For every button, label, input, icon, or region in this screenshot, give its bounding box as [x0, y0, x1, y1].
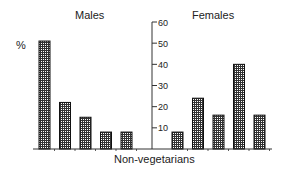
males-bars	[39, 41, 132, 149]
y-tick-label: 20	[158, 102, 168, 112]
males-bar	[80, 117, 91, 149]
females-bars	[172, 64, 265, 149]
y-tick-label: 30	[158, 81, 168, 91]
females-bar	[193, 98, 204, 149]
females-bar	[172, 132, 183, 149]
males-bar	[101, 132, 112, 149]
males-bar	[60, 102, 71, 149]
females-bar	[254, 115, 265, 149]
males-bar	[39, 41, 50, 149]
males-bar	[121, 132, 132, 149]
y-tick-label: 10	[158, 123, 168, 133]
y-tick-label: 60	[158, 18, 168, 28]
females-title: Females	[192, 9, 235, 21]
females-bar	[213, 115, 224, 149]
y-axis-ticks: 102030405060	[152, 18, 168, 134]
x-axis-label: Non-vegetarians	[114, 153, 195, 165]
y-axis-label: %	[16, 39, 26, 51]
males-title: Males	[75, 9, 105, 21]
y-tick-label: 40	[158, 60, 168, 70]
bar-chart: 102030405060 Males Females % Non-vegetar…	[0, 0, 289, 172]
y-tick-label: 50	[158, 39, 168, 49]
females-bar	[234, 64, 245, 149]
